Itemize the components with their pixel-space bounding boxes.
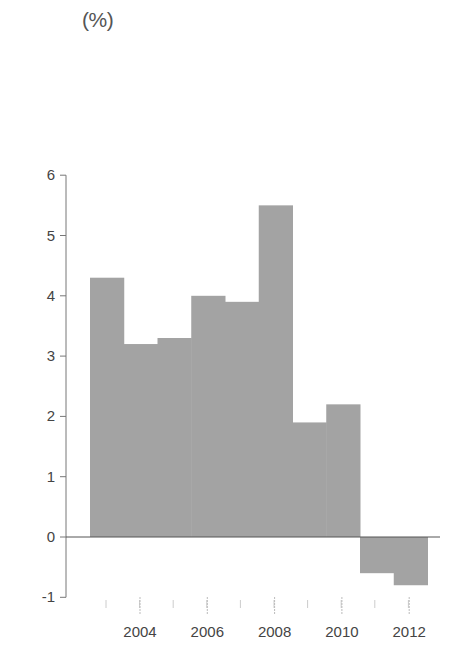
bar-2006 xyxy=(191,296,225,537)
y-tick-label: 2 xyxy=(47,407,55,424)
bar-2003 xyxy=(90,278,124,537)
bar-2008 xyxy=(259,205,293,537)
x-tick-label: 2012 xyxy=(393,623,426,640)
bar-2007 xyxy=(225,302,259,537)
y-tick-label: 5 xyxy=(47,227,55,244)
y-tick-label: 1 xyxy=(47,468,55,485)
y-tick-label: -1 xyxy=(42,588,55,605)
y-tick-label: 4 xyxy=(47,287,55,304)
x-tick-label: 2008 xyxy=(258,623,291,640)
bar-2009 xyxy=(293,422,327,537)
x-tick-label: 2006 xyxy=(191,623,224,640)
bar-2004 xyxy=(124,344,158,537)
y-tick-label: 0 xyxy=(47,528,55,545)
bar-chart: -1012345620042006200820102012 xyxy=(0,0,468,666)
y-tick-label: 6 xyxy=(47,166,55,183)
bar-2005 xyxy=(158,338,192,537)
y-tick-label: 3 xyxy=(47,347,55,364)
bar-2010 xyxy=(326,404,360,537)
x-tick-label: 2004 xyxy=(123,623,156,640)
bar-2011 xyxy=(360,537,394,573)
bar-2012 xyxy=(394,537,428,585)
x-tick-label: 2010 xyxy=(325,623,358,640)
